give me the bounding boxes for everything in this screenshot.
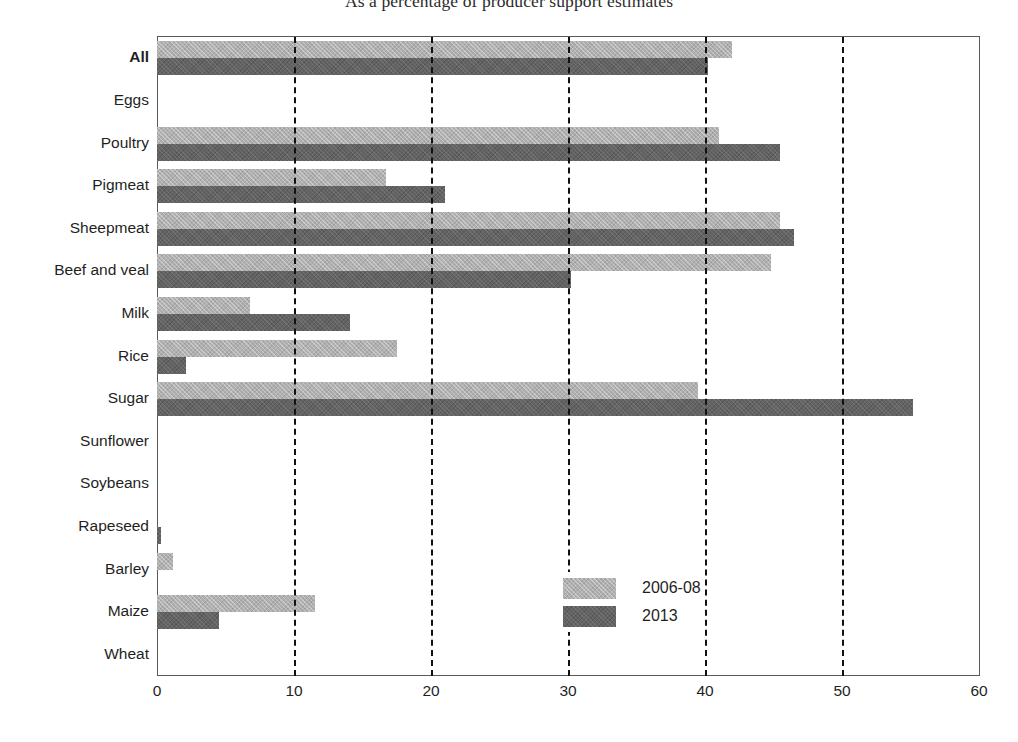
gridline-10 bbox=[294, 37, 296, 676]
bar bbox=[157, 144, 780, 161]
legend-label-2013: 2013 bbox=[642, 607, 678, 625]
x-axis-tick-0: 0 bbox=[153, 682, 162, 700]
x-axis-tick-20: 20 bbox=[422, 682, 439, 700]
bar bbox=[157, 612, 219, 629]
y-axis-label-wheat: Wheat bbox=[7, 645, 157, 663]
y-axis-label-maize: Maize bbox=[7, 602, 157, 620]
y-axis-label-barley: Barley bbox=[7, 560, 157, 578]
y-axis-label-milk: Milk bbox=[7, 304, 157, 322]
bar bbox=[157, 382, 698, 399]
y-axis-category-labels: AllEggsPoultryPigmeatSheepmeatBeef and v… bbox=[0, 37, 157, 676]
y-axis-label-pigmeat: Pigmeat bbox=[7, 176, 157, 194]
x-axis-tick-50: 50 bbox=[833, 682, 850, 700]
y-axis-label-all: All bbox=[7, 48, 157, 66]
y-axis-label-beef-and-veal: Beef and veal bbox=[7, 261, 157, 279]
chart-title: As a percentage of producer support esti… bbox=[0, 0, 1018, 12]
y-axis-label-poultry: Poultry bbox=[7, 134, 157, 152]
bar bbox=[157, 297, 250, 314]
bar bbox=[157, 254, 771, 271]
bar bbox=[157, 186, 445, 203]
x-axis-tick-labels: 0102030405060 bbox=[0, 682, 1018, 706]
gridline-40 bbox=[705, 37, 707, 676]
y-axis-label-eggs: Eggs bbox=[7, 91, 157, 109]
x-axis-tick-40: 40 bbox=[696, 682, 713, 700]
gridline-50 bbox=[842, 37, 844, 676]
legend-swatch-2006-08 bbox=[563, 578, 616, 599]
x-axis-tick-60: 60 bbox=[970, 682, 987, 700]
bar bbox=[157, 553, 173, 570]
x-axis-tick-10: 10 bbox=[285, 682, 302, 700]
gridline-20 bbox=[431, 37, 433, 676]
bar bbox=[157, 314, 350, 331]
legend-item-series-1: 2006-08 bbox=[563, 574, 701, 602]
bar bbox=[157, 527, 161, 544]
bar bbox=[157, 41, 732, 58]
bar bbox=[157, 169, 386, 186]
legend-item-series-2: 2013 bbox=[563, 602, 701, 630]
x-axis-tick-30: 30 bbox=[559, 682, 576, 700]
bar bbox=[157, 271, 571, 288]
y-axis-label-soybeans: Soybeans bbox=[7, 474, 157, 492]
y-axis-label-sugar: Sugar bbox=[7, 389, 157, 407]
bar bbox=[157, 340, 397, 357]
chart-legend: 2006-08 2013 bbox=[561, 572, 705, 632]
legend-label-2006-08: 2006-08 bbox=[642, 579, 701, 597]
bar bbox=[157, 127, 719, 144]
bar bbox=[157, 399, 913, 416]
bar bbox=[157, 212, 780, 229]
legend-swatch-2013 bbox=[563, 606, 616, 627]
bar bbox=[157, 229, 794, 246]
y-axis-label-rice: Rice bbox=[7, 347, 157, 365]
y-axis-label-rapeseed: Rapeseed bbox=[7, 517, 157, 535]
bar bbox=[157, 357, 186, 374]
y-axis-label-sheepmeat: Sheepmeat bbox=[7, 219, 157, 237]
bar bbox=[157, 595, 315, 612]
y-axis-label-sunflower: Sunflower bbox=[7, 432, 157, 450]
